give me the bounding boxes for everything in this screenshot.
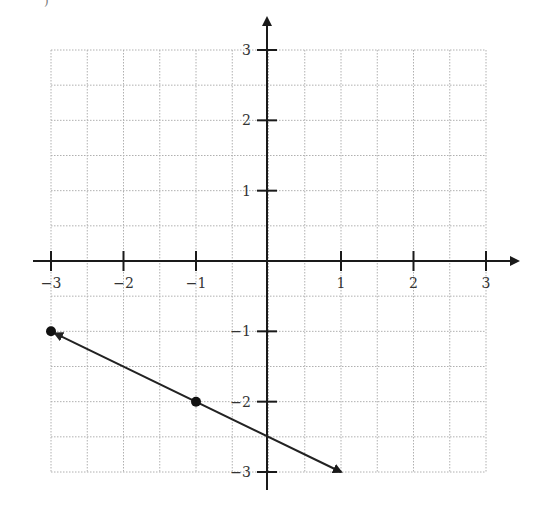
x-tick-label: −2 xyxy=(113,275,134,291)
data-point xyxy=(46,326,56,336)
data-series xyxy=(46,326,341,472)
y-tick-label: −1 xyxy=(230,323,251,339)
y-tick-label: −2 xyxy=(230,394,251,410)
y-tick-label: 1 xyxy=(242,183,251,199)
x-tick-label: −3 xyxy=(41,275,62,291)
y-tick-label: 2 xyxy=(242,112,251,128)
y-tick-label: −3 xyxy=(230,464,251,480)
y-tick-label: 3 xyxy=(242,42,251,58)
x-tick-label: −1 xyxy=(186,275,207,291)
x-tick-label: 3 xyxy=(482,275,491,291)
data-point xyxy=(191,397,201,407)
x-tick-label: 1 xyxy=(337,275,346,291)
coordinate-plane-chart: −3−2−1123321−1−2−3 xyxy=(0,0,544,528)
axes xyxy=(33,18,518,490)
x-tick-label: 2 xyxy=(409,275,418,291)
